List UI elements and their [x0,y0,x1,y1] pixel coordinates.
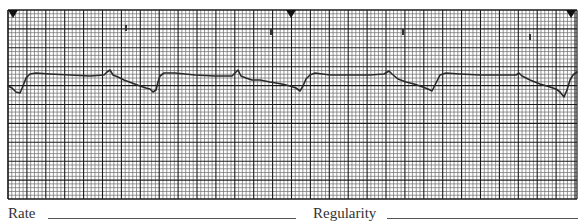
regularity-label: Regularity [313,204,376,222]
rate-input-line[interactable] [48,218,296,219]
regularity-input-line[interactable] [387,218,578,219]
rate-label: Rate [8,204,36,222]
ecg-strip [0,0,580,204]
